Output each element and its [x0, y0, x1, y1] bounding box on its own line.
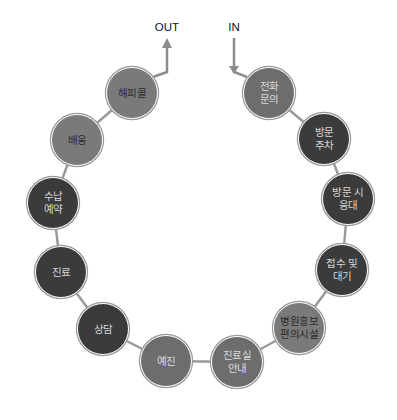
step-node-pre-exam: 예진 [140, 335, 192, 387]
out-arrow [150, 46, 167, 78]
step-label: 방문 시 응대 [332, 186, 363, 212]
step-label: 방문 주차 [315, 126, 334, 152]
in-arrow [234, 38, 247, 77]
step-node-treatment: 진료 [35, 246, 87, 298]
out-arrowhead-icon [162, 38, 172, 48]
step-label: 배웅 [68, 134, 87, 147]
step-label: 전화 문의 [260, 80, 279, 106]
step-node-visit-reception: 방문 시 응대 [322, 173, 374, 225]
step-node-payment-reservation: 수납 예약 [27, 177, 79, 229]
step-node-happy-call: 해피콜 [106, 67, 158, 119]
step-node-exam-room-guide: 진료실 안내 [211, 336, 263, 388]
in-label: IN [228, 21, 240, 33]
step-node-send-off: 배웅 [51, 114, 103, 166]
step-label: 수납 예약 [44, 190, 63, 216]
step-label: 해피콜 [118, 87, 147, 100]
out-label: OUT [155, 21, 179, 33]
step-node-visit-parking: 방문 주차 [298, 113, 350, 165]
step-node-registration-waiting: 접수 및 대기 [316, 244, 368, 296]
step-node-hospital-promo-amenities: 병원홍보 편의시설 [273, 302, 325, 354]
step-label: 진료 [52, 266, 71, 279]
step-label: 상담 [94, 323, 113, 336]
step-label: 예진 [157, 355, 176, 368]
step-node-phone-inquiry: 전화 문의 [243, 67, 295, 119]
step-label: 진료실 안내 [223, 349, 252, 375]
step-label: 병원홍보 편의시설 [280, 315, 318, 341]
step-label: 접수 및 대기 [326, 257, 357, 283]
step-node-consultation: 상담 [77, 303, 129, 355]
